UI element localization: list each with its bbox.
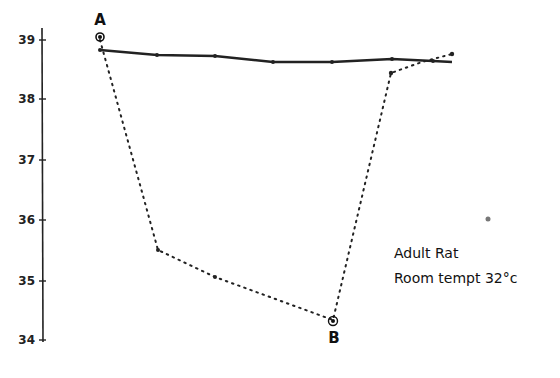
point-b-label: B [328,329,339,347]
annotation-room-temp: Room tempt 32°c [394,266,517,291]
y-tick-39: 39 [18,33,35,47]
y-tick-38: 38 [18,92,35,106]
control-series-line [100,50,452,62]
point-a-label: A [94,11,106,29]
y-tick-34: 34 [18,333,35,347]
chart-annotation: Adult Rat Room tempt 32°c [394,241,517,291]
y-tick-35: 35 [18,274,35,288]
y-axis [42,28,43,342]
y-tick-labels: 39 38 37 36 35 34 [18,33,35,347]
stray-dot [486,217,491,222]
y-tick-36: 36 [18,213,35,227]
annotation-subject: Adult Rat [394,241,517,266]
y-tick-37: 37 [18,153,35,167]
temperature-chart: 39 38 37 36 35 34 A B [0,0,560,378]
